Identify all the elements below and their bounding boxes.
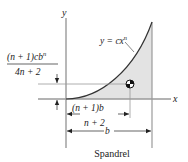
xbar-denominator: n + 2 bbox=[84, 118, 105, 128]
curve-leader bbox=[125, 42, 134, 52]
y-axis-label: y bbox=[61, 7, 67, 18]
centroid-icon bbox=[126, 80, 134, 88]
spandrel-diagram: y x y = cxn (n + 1)cbn 4n + 2 (n + 1)b n… bbox=[0, 0, 188, 162]
ybar-numerator: (n + 1)cbn bbox=[7, 50, 46, 63]
ybar-denominator: 4n + 2 bbox=[15, 67, 41, 77]
b-label: b bbox=[105, 126, 110, 136]
curve-label: y = cxn bbox=[99, 34, 127, 46]
shaded-area bbox=[66, 22, 152, 99]
x-axis-label: x bbox=[172, 93, 178, 104]
xbar-numerator: (n + 1)b bbox=[72, 103, 104, 114]
diagram-title: Spandrel bbox=[94, 148, 130, 159]
